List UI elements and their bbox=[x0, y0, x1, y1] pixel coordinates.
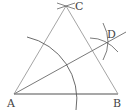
label-a: A bbox=[6, 97, 16, 110]
label-b: B bbox=[113, 97, 121, 110]
construction-diagram: A B C D bbox=[0, 0, 133, 112]
label-d: D bbox=[107, 28, 116, 41]
side-ac bbox=[14, 6, 66, 94]
bisector-ad bbox=[14, 32, 126, 94]
label-c: C bbox=[75, 0, 83, 13]
side-bc bbox=[66, 6, 118, 94]
